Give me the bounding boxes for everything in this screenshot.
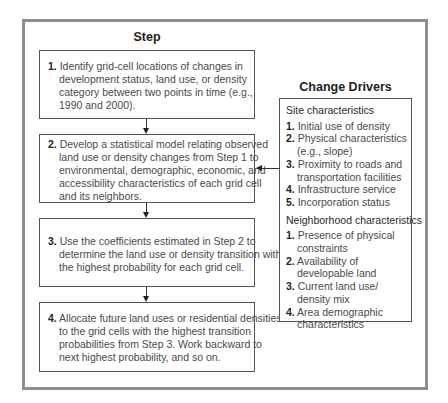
step-text-line: determine the land use or density transi…: [48, 248, 250, 261]
step-number: 2.: [48, 138, 57, 150]
driver-item: 3. Proximity to roads and transportation…: [286, 158, 411, 183]
step-text-line: 4. Allocate future land uses or resident…: [48, 312, 250, 325]
step-text-line: land use or density changes from Step 1 …: [48, 151, 250, 164]
step-4-box: 4. Allocate future land uses or resident…: [39, 302, 255, 372]
step-text-line: next highest probability, and so on.: [48, 351, 250, 364]
driver-item: 1. Initial use of density: [286, 120, 411, 133]
driver-number: 2.: [286, 255, 295, 267]
step-3-box: 3. Use the coefficients estimated in Ste…: [39, 218, 255, 287]
step-text-line: probabilities from Step 3. Work backward…: [48, 338, 250, 351]
driver-item: 4. Infrastructure service: [286, 183, 411, 196]
drivers-connector-line: [261, 168, 279, 169]
step-text-line: accessibility characteristics of each gr…: [48, 177, 250, 190]
change-drivers-box: Site characteristics 1. Initial use of d…: [279, 98, 412, 322]
connector-line: [146, 287, 147, 296]
driver-number: 4.: [286, 306, 295, 318]
driver-number: 3.: [286, 280, 295, 292]
step-text-line: and its neighbors.: [48, 190, 250, 203]
driver-number: 4.: [286, 183, 295, 195]
step-text-line: 3. Use the coefficients estimated in Ste…: [48, 235, 250, 248]
connector-line: [146, 119, 147, 128]
step-text-line: development status, land use, or density: [48, 73, 250, 86]
step-number: 4.: [48, 312, 57, 324]
driver-item: 4. Area demographic characteristics: [286, 306, 411, 331]
driver-number: 1.: [286, 120, 295, 132]
site-characteristics-title: Site characteristics: [286, 104, 411, 117]
driver-item: 1. Presence of physical constraints: [286, 229, 411, 254]
step-number: 3.: [48, 235, 57, 247]
driver-item: 3. Current land use/ density mix: [286, 280, 411, 305]
driver-number: 5.: [286, 196, 295, 208]
driver-item: 2. Availability of developable land: [286, 255, 411, 280]
driver-number: 1.: [286, 229, 295, 241]
step-text-line: 1. Identify grid-cell locations of chang…: [48, 60, 250, 73]
step-number: 1.: [48, 60, 57, 72]
driver-number: 2.: [286, 132, 295, 144]
driver-item: 2. Physical characteristics (e.g., slope…: [286, 132, 411, 157]
step-1-box: 1. Identify grid-cell locations of chang…: [39, 50, 255, 119]
steps-heading: Step: [39, 30, 255, 44]
step-text-line: 2. Develop a statistical model relating …: [48, 138, 250, 151]
connector-line: [146, 203, 147, 212]
drivers-heading: Change Drivers: [279, 80, 412, 94]
step-2-box: 2. Develop a statistical model relating …: [39, 134, 255, 203]
step-text-line: category between two points in time (e.g…: [48, 86, 250, 99]
driver-number: 3.: [286, 158, 295, 170]
step-text-line: the highest probability for each grid ce…: [48, 261, 250, 274]
neighborhood-characteristics-title: Neighborhood characteristics: [286, 214, 411, 227]
step-text-line: environmental, demographic, economic, an…: [48, 164, 250, 177]
driver-item: 5. Incorporation status: [286, 196, 411, 209]
step-text-line: 1990 and 2000).: [48, 99, 250, 112]
arrow-left-icon: [256, 165, 262, 171]
step-text-line: to the grid cells with the highest trans…: [48, 325, 250, 338]
